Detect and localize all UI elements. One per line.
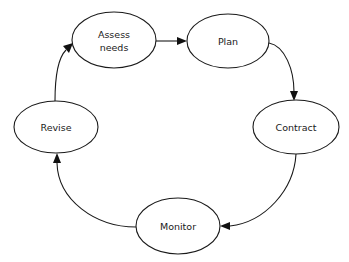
node-label-assess: Assess xyxy=(98,29,130,40)
arrowhead-plan xyxy=(177,37,187,45)
node-contract: Contract xyxy=(253,100,339,154)
node-assess-needs: Assess needs xyxy=(72,12,156,68)
node-plan: Plan xyxy=(187,14,269,68)
edge-revise-to-assess xyxy=(55,50,66,101)
node-label-monitor: Monitor xyxy=(160,221,196,232)
arrowhead-monitor xyxy=(220,222,230,230)
arrowhead-revise xyxy=(53,153,61,163)
cycle-diagram: Assess needs Plan Contract Monitor Revis… xyxy=(0,0,349,262)
node-label-plan: Plan xyxy=(218,36,238,47)
node-label-contract: Contract xyxy=(276,122,317,133)
ellipse-assess-needs xyxy=(72,12,156,68)
node-monitor: Monitor xyxy=(136,198,220,254)
edge-contract-to-monitor xyxy=(230,154,296,226)
node-label-revise: Revise xyxy=(40,122,71,133)
node-revise: Revise xyxy=(14,101,98,153)
edge-monitor-to-revise xyxy=(57,163,136,227)
edge-plan-to-contract xyxy=(269,43,294,92)
node-label-needs: needs xyxy=(100,42,129,53)
